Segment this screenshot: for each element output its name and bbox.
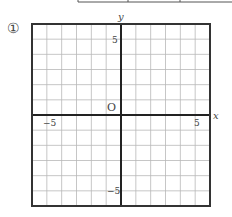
origin-label: O (107, 101, 116, 114)
coordinate-plane-figure: y x O 5 −5 −5 5 ① (0, 0, 232, 217)
problem-number-marker: ① (7, 20, 20, 36)
x-tick-5-label: 5 (194, 118, 200, 128)
y-tick-5-label: 5 (112, 35, 118, 45)
y-tick-neg5-label: −5 (107, 186, 121, 196)
y-axis-label: y (117, 11, 124, 22)
x-axis-label: x (213, 110, 219, 121)
partial-table (78, 0, 232, 2)
x-tick-neg5-label: −5 (43, 118, 57, 128)
